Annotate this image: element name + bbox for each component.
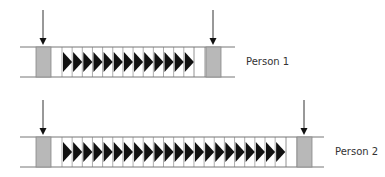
- play-triangle-icon: [114, 52, 123, 72]
- play-triangle-icon: [104, 52, 113, 72]
- play-triangle-icon: [154, 52, 163, 72]
- end-marker-box: [206, 47, 221, 77]
- end-marker-box: [297, 137, 312, 167]
- play-triangle-icon: [276, 142, 285, 162]
- play-triangle-icon: [93, 52, 102, 72]
- down-arrow-icon: [210, 38, 217, 45]
- play-triangle-icon: [215, 142, 224, 162]
- play-triangle-icon: [73, 142, 82, 162]
- play-triangle-icon: [83, 142, 92, 162]
- play-triangle-icon: [124, 142, 133, 162]
- play-triangle-icon: [83, 52, 92, 72]
- play-triangle-icon: [266, 142, 275, 162]
- row-label-person-1: Person 1: [246, 56, 289, 67]
- play-triangle-icon: [144, 52, 153, 72]
- play-triangle-icon: [185, 142, 194, 162]
- play-triangle-icon: [63, 142, 72, 162]
- down-arrow-icon: [40, 128, 47, 135]
- play-triangle-icon: [195, 142, 204, 162]
- play-triangle-icon: [236, 142, 245, 162]
- play-triangle-icon: [165, 142, 174, 162]
- play-triangle-icon: [175, 142, 184, 162]
- down-arrow-icon: [40, 38, 47, 45]
- row-label-person-2: Person 2: [335, 146, 378, 157]
- play-triangle-icon: [93, 142, 102, 162]
- play-triangle-icon: [175, 52, 184, 72]
- play-triangle-icon: [134, 52, 143, 72]
- play-triangle-icon: [104, 142, 113, 162]
- play-triangle-icon: [73, 52, 82, 72]
- play-triangle-icon: [256, 142, 265, 162]
- play-triangle-icon: [154, 142, 163, 162]
- play-triangle-icon: [165, 52, 174, 72]
- play-triangle-icon: [205, 142, 214, 162]
- play-triangle-icon: [63, 52, 72, 72]
- timeline-diagram: [0, 0, 385, 177]
- play-triangle-icon: [144, 142, 153, 162]
- start-marker-box: [36, 47, 51, 77]
- play-triangle-icon: [134, 142, 143, 162]
- play-triangle-icon: [246, 142, 255, 162]
- play-triangle-icon: [185, 52, 194, 72]
- play-triangle-icon: [225, 142, 234, 162]
- play-triangle-icon: [114, 142, 123, 162]
- play-triangle-icon: [124, 52, 133, 72]
- start-marker-box: [36, 137, 51, 167]
- down-arrow-icon: [301, 128, 308, 135]
